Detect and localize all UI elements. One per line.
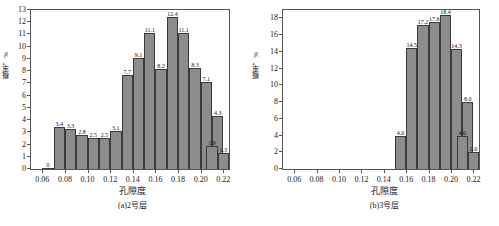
histogram-bar: 2.8 [76, 135, 87, 169]
y-tick-label: 16 [270, 31, 278, 39]
y-tick-mark [279, 17, 283, 18]
x-tick-mark [406, 169, 407, 173]
x-tick-mark [429, 169, 430, 173]
x-tick-mark [223, 169, 224, 173]
histogram-bar: 18.4 [440, 15, 451, 169]
y-tick-label: 6 [22, 92, 26, 100]
chart-panel-b: 概率，% 0246810121416180.060.080.100.120.14… [250, 0, 499, 226]
y-tick-label: 10 [270, 81, 278, 89]
y-tick-label: 0 [22, 165, 26, 173]
y-tick-mark [279, 34, 283, 35]
y-tick-mark [27, 33, 31, 34]
y-tick-mark [27, 144, 31, 145]
y-tick-label: 18 [270, 14, 278, 22]
figure-container: 概率，% 0123456789101112130.060.080.100.120… [0, 0, 499, 226]
x-tick-label: 0.16 [148, 175, 162, 184]
x-tick-label: 0.14 [126, 175, 140, 184]
y-tick-label: 10 [18, 43, 26, 51]
y-tick-mark [27, 168, 31, 169]
bar-value-label: 3.4 [56, 121, 64, 128]
histogram-bar: 4.0 [395, 136, 406, 169]
bar-value-label: 4.3 [214, 110, 222, 117]
x-tick-label: 0.20 [444, 175, 458, 184]
histogram-bar: 8.3 [189, 68, 200, 170]
x-tick-label: 0.10 [332, 175, 346, 184]
y-tick-label: 14 [270, 48, 278, 56]
histogram-bar: 11.1 [144, 33, 155, 169]
histogram-bar: 2.5 [99, 138, 110, 169]
plot-area-a: 0123456789101112130.060.080.100.120.140.… [30, 9, 230, 170]
bar-value-label: 2.5 [89, 132, 97, 139]
x-tick-mark [339, 169, 340, 173]
panel-caption-a: (a)2号层 [8, 201, 257, 210]
x-tick-label: 0.16 [399, 175, 413, 184]
x-tick-label: 0.08 [58, 175, 72, 184]
bar-value-label: 17.6 [429, 16, 440, 23]
x-tick-mark [178, 169, 179, 173]
y-tick-label: 1 [22, 153, 26, 161]
y-tick-label: 11 [18, 30, 26, 38]
y-tick-mark [27, 21, 31, 22]
y-tick-mark [27, 9, 31, 10]
x-tick-label: 0.22 [466, 175, 480, 184]
histogram-bar: 8.2 [155, 69, 166, 169]
y-tick-label: 9 [22, 55, 26, 63]
x-axis-title-a: 孔隙度 [8, 186, 257, 196]
y-tick-label: 4 [274, 132, 278, 140]
x-tick-label: 0.06 [287, 175, 301, 184]
x-tick-label: 0.20 [194, 175, 208, 184]
x-tick-mark [361, 169, 362, 173]
y-tick-label: 12 [270, 65, 278, 73]
panel-caption-b: (b)3号层 [260, 201, 499, 210]
histogram-bar: 17.6 [429, 22, 440, 169]
y-tick-mark [279, 118, 283, 119]
x-tick-label: 0.14 [377, 175, 391, 184]
histogram-bar: 4.0 [457, 136, 468, 169]
x-tick-mark [473, 169, 474, 173]
y-tick-label: 2 [274, 148, 278, 156]
x-tick-label: 0.10 [81, 175, 95, 184]
bar-value-label: 17.2 [418, 19, 429, 26]
x-tick-mark [294, 169, 295, 173]
y-tick-label: 3 [22, 128, 26, 136]
x-tick-label: 0.18 [422, 175, 436, 184]
y-axis-title-b: 概率，% [252, 52, 264, 79]
bar-value-label: 18.4 [440, 9, 451, 16]
y-tick-mark [27, 95, 31, 96]
y-tick-label: 13 [18, 6, 26, 14]
bar-value-label: 2.5 [101, 132, 109, 139]
bar-value-label: 0 [46, 162, 49, 169]
histogram-bar: 14.5 [406, 48, 417, 169]
y-tick-mark [27, 156, 31, 157]
bar-value-label: 1.3 [220, 147, 228, 154]
x-tick-mark [201, 169, 202, 173]
histogram-bar: 9.1 [133, 58, 144, 169]
bar-value-label: 1.9 [208, 140, 216, 147]
y-tick-mark [27, 70, 31, 71]
y-tick-label: 8 [274, 98, 278, 106]
bar-value-label: 8.3 [191, 62, 199, 69]
x-axis-title-b: 孔隙度 [260, 186, 499, 196]
y-tick-mark [27, 131, 31, 132]
bar-value-label: 4.0 [397, 130, 405, 137]
bar-value-label: 11.1 [145, 27, 155, 34]
plot-area-b: 0246810121416180.060.080.100.120.140.160… [282, 9, 480, 170]
histogram-bar: 1.9 [206, 146, 217, 169]
y-tick-label: 5 [22, 104, 26, 112]
bar-value-label: 2.0 [470, 146, 478, 153]
bar-value-label: 14.5 [407, 42, 418, 49]
x-tick-mark [384, 169, 385, 173]
y-tick-mark [279, 151, 283, 152]
bar-value-label: 14.3 [451, 43, 462, 50]
histogram-bar: 2.5 [88, 138, 99, 169]
y-tick-label: 8 [22, 67, 26, 75]
histogram-bar: 11.1 [178, 33, 189, 169]
x-tick-label: 0.18 [171, 175, 185, 184]
y-tick-mark [27, 46, 31, 47]
x-tick-mark [155, 169, 156, 173]
x-tick-mark [133, 169, 134, 173]
bar-value-label: 8.2 [157, 63, 165, 70]
bar-value-label: 12.4 [167, 11, 178, 18]
histogram-bar: 12.4 [167, 17, 178, 169]
y-tick-label: 6 [274, 115, 278, 123]
